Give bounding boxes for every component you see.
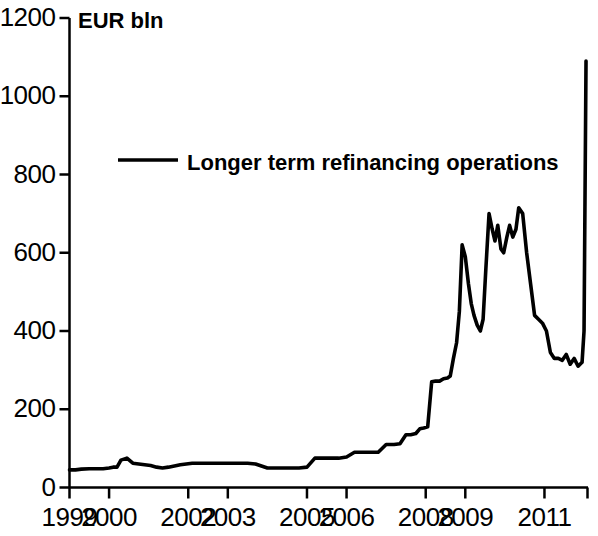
y-tick-label: 600 bbox=[0, 237, 56, 268]
y-tick-label: 1000 bbox=[0, 80, 56, 111]
axes-group bbox=[60, 18, 589, 499]
y-tick-label: 800 bbox=[0, 159, 56, 190]
y-tick-label: 0 bbox=[0, 472, 56, 503]
plot-area bbox=[0, 0, 598, 536]
chart-container: EUR bln Longer term refinancing operatio… bbox=[0, 0, 598, 536]
x-tick-marks bbox=[70, 488, 588, 499]
x-tick-label: 2006 bbox=[307, 502, 387, 533]
x-tick-label: 2000 bbox=[69, 502, 149, 533]
x-tick-label: 2011 bbox=[504, 502, 584, 533]
y-tick-label: 1200 bbox=[0, 2, 56, 33]
x-tick-label: 2009 bbox=[425, 502, 505, 533]
data-line-longer-term-refinancing-operations bbox=[70, 61, 587, 470]
y-tick-label: 200 bbox=[0, 393, 56, 424]
y-tick-marks bbox=[60, 18, 70, 488]
y-tick-label: 400 bbox=[0, 315, 56, 346]
legend-label: Longer term refinancing operations bbox=[187, 150, 559, 176]
x-tick-label: 2003 bbox=[188, 502, 268, 533]
